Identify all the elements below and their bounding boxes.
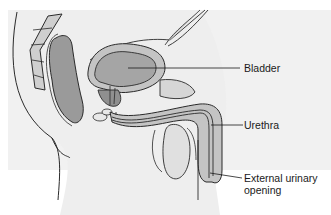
testis: [163, 124, 190, 178]
anatomy-diagram: Bladder Urethra External urinary opening: [0, 0, 331, 215]
label-urethra: Urethra: [244, 119, 279, 131]
label-external-urinary-opening-line1: External urinary: [244, 172, 318, 184]
label-bladder: Bladder: [244, 62, 280, 74]
label-external-urinary-opening-line2: opening: [244, 184, 281, 196]
